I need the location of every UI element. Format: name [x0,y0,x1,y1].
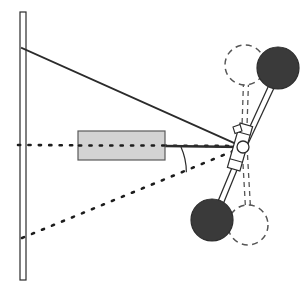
steering-rack [78,131,165,160]
rack-output-rod [165,146,243,147]
lower-axle-straight [243,155,251,208]
upper-wheel-turned [257,47,299,89]
rack-rod [165,146,243,147]
lower-wheel-straight [228,205,268,245]
lower-wheel-straight-outline [228,205,268,245]
kingpin-pivot-joint [237,141,249,153]
lower-axle-straight-edge-a [243,155,246,208]
upper-axle-turned-edge-b [247,88,275,147]
steering-geometry-diagram [0,0,306,291]
steer-angle-arc [181,147,186,172]
pivot-circle [237,141,249,153]
angle-arc [181,147,186,172]
upper-wheel-turned-disc [257,47,299,89]
diagram-canvas [0,0,306,291]
lower-wheel-turned [191,199,233,241]
lower-wheel-turned-disc [191,199,233,241]
lower-axle-straight-edge-b [248,155,251,208]
